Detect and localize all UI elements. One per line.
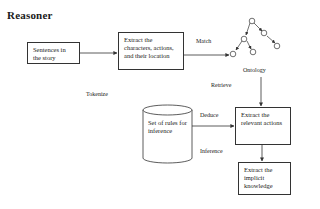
tokenize-label: Tokenize: [86, 91, 108, 97]
deduce-label: Deduce: [200, 112, 218, 118]
sentences-box: Sentences in the story: [27, 42, 80, 64]
extract-actions-label: Extract the relevant actions: [241, 111, 282, 126]
inference-label: Inference: [200, 148, 223, 154]
ontology-label: Ontology: [243, 67, 266, 73]
extract-knowledge-label: Extract the implicit knowledge: [244, 166, 273, 189]
retrieve-label: Retrieve: [211, 82, 231, 88]
extract-characters-box: Extract the characters, actions, and the…: [118, 32, 184, 70]
extract-knowledge-box: Extract the implicit knowledge: [238, 162, 291, 195]
match-label: Match: [196, 38, 211, 44]
extract-actions-box: Extract the relevant actions: [235, 107, 291, 145]
sentences-label: Sentences in the story: [33, 46, 66, 61]
ontology-tree-icon: [230, 18, 280, 57]
rules-label: Set of rules for inference: [148, 119, 188, 135]
extract-characters-label: Extract the characters, actions, and the…: [124, 36, 174, 59]
